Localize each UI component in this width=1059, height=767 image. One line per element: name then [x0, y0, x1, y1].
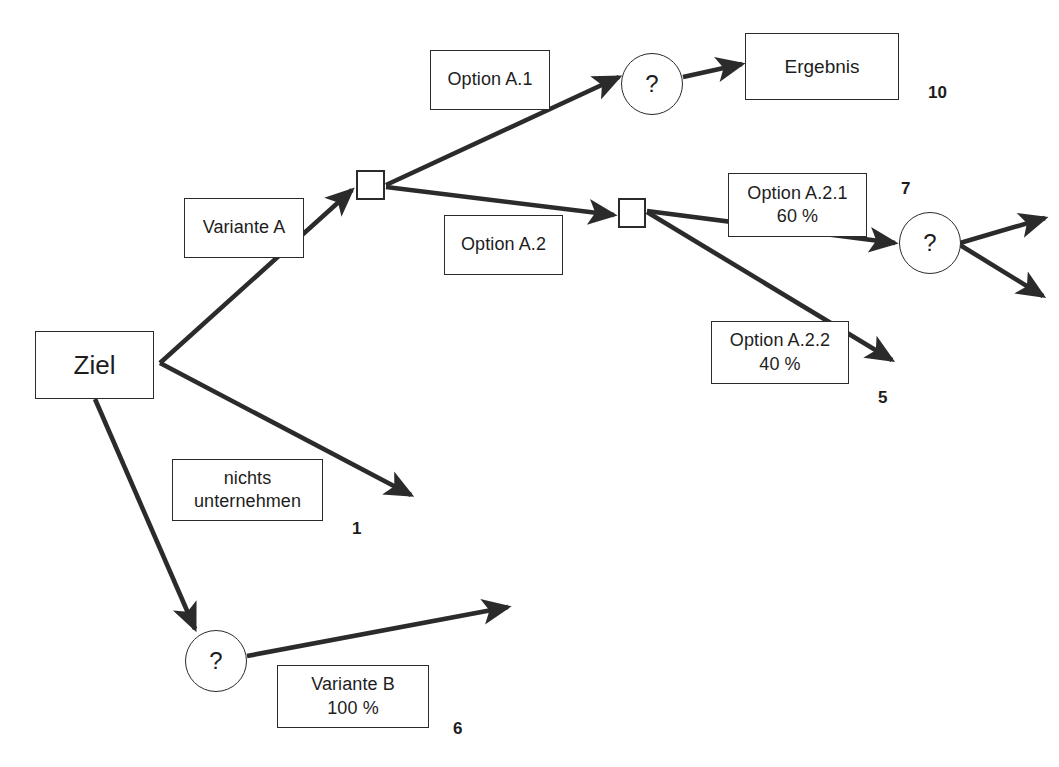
payoff-nichts: 1 [352, 519, 361, 539]
decision-tree-canvas: Ziel ? ? ? Ergebnis Variante AOption A.1… [0, 0, 1059, 767]
edge-label-variante-a[interactable]: Variante A [184, 198, 304, 258]
edge-label-line1: Variante A [203, 216, 286, 239]
payoff-a22: 5 [878, 388, 887, 408]
edge-label-line2: 100 % [327, 697, 379, 720]
edge-label-variante-b[interactable]: Variante B100 % [277, 665, 429, 728]
edge-label-option-a2[interactable]: Option A.2 [444, 215, 563, 275]
node-chance-b[interactable]: ? [185, 630, 247, 692]
edge-label-line2: unternehmen [194, 490, 301, 513]
node-chance-a21[interactable]: ? [899, 212, 961, 274]
node-goal[interactable]: Ziel [35, 331, 154, 399]
edge-label-line1: nichts [224, 467, 272, 490]
edge-label-line1: Option A.1 [447, 68, 532, 91]
edge-layer [0, 0, 1059, 767]
edge-label-option-a22[interactable]: Option A.2.240 % [711, 321, 849, 384]
edge-label-line1: Variante B [311, 673, 395, 696]
edge-chance-a21-branch-down [960, 245, 1043, 296]
node-goal-label: Ziel [74, 350, 116, 381]
payoff-a21: 7 [901, 179, 910, 199]
node-decision-a2[interactable] [618, 198, 646, 228]
payoff-variante-b: 6 [453, 719, 462, 739]
edge-label-line2: 60 % [777, 205, 818, 228]
node-chance-a1[interactable]: ? [621, 53, 683, 115]
chance-a21-label: ? [923, 229, 936, 257]
edge-label-option-a21[interactable]: Option A.2.160 % [728, 173, 867, 237]
edge-chance-b-to-open [247, 607, 508, 656]
edge-label-line1: Option A.2.2 [730, 329, 830, 352]
edge-chance-a1-to-result [683, 64, 742, 77]
edge-label-option-a1[interactable]: Option A.1 [430, 50, 550, 110]
edge-label-line2: 40 % [759, 353, 800, 376]
node-result[interactable]: Ergebnis [745, 33, 899, 100]
edge-decision-a-to-decision-a2 [386, 187, 614, 215]
edge-label-nichts-unternehmen[interactable]: nichtsunternehmen [172, 459, 323, 521]
edge-chance-a21-branch-up [960, 218, 1045, 243]
chance-b-label: ? [209, 647, 222, 675]
edge-label-line1: Option A.2 [461, 233, 546, 256]
node-decision-a[interactable] [356, 170, 385, 200]
chance-a1-label: ? [645, 70, 658, 98]
node-result-label: Ergebnis [785, 56, 860, 78]
payoff-ergebnis: 10 [928, 83, 947, 103]
edge-label-line1: Option A.2.1 [747, 182, 847, 205]
